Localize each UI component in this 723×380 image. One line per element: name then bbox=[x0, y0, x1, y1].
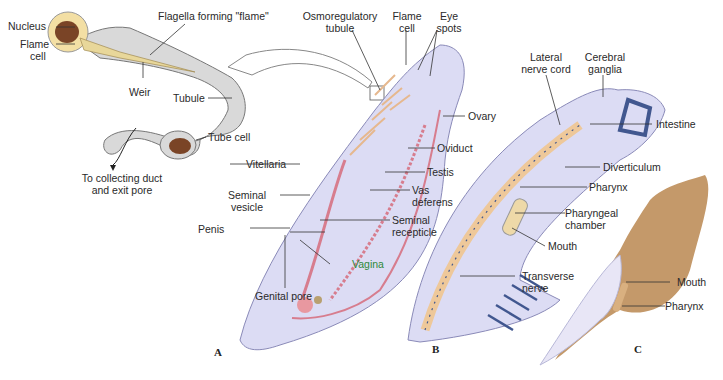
label-genital-pore: Genital pore bbox=[255, 290, 312, 302]
label-osmoregulatory-1: Osmoregulatory bbox=[300, 10, 380, 22]
panel-label-c: C bbox=[634, 343, 642, 355]
label-eye-spots-2: spots bbox=[432, 22, 466, 34]
label-mouth-b: Mouth bbox=[548, 240, 577, 252]
label-collecting-duct-1: To collecting duct bbox=[72, 172, 172, 184]
label-cerebral-ganglia-1: Cerebral bbox=[580, 51, 630, 63]
label-flame-cell-a-1: Flame bbox=[390, 10, 424, 22]
label-cerebral-ganglia-2: ganglia bbox=[580, 63, 630, 75]
label-testis: Testis bbox=[427, 166, 454, 178]
label-intestine: Intestine bbox=[656, 118, 696, 130]
label-pharyngeal-chamber-2: chamber bbox=[565, 219, 606, 231]
label-nucleus: Nucleus bbox=[8, 20, 46, 32]
label-lateral-nerve-cord-2: nerve cord bbox=[513, 63, 579, 75]
label-seminal-vesicle-2: vesicle bbox=[214, 201, 280, 213]
label-vas-deferens-1: Vas bbox=[412, 184, 429, 196]
label-vas-deferens-2: deferens bbox=[412, 196, 453, 208]
label-ovary: Ovary bbox=[468, 110, 496, 122]
label-tubule: Tubule bbox=[173, 92, 205, 104]
label-tube-cell: Tube cell bbox=[208, 131, 250, 143]
panel-label-a: A bbox=[214, 346, 222, 358]
label-flagella: Flagella forming "flame" bbox=[158, 10, 269, 22]
label-lateral-nerve-cord-1: Lateral bbox=[513, 51, 579, 63]
label-diverticulum: Diverticulum bbox=[603, 161, 661, 173]
label-penis: Penis bbox=[198, 223, 224, 235]
label-mouth-c: Mouth bbox=[677, 276, 706, 288]
label-eye-spots-1: Eye bbox=[432, 10, 466, 22]
label-pharynx-b: Pharynx bbox=[589, 181, 628, 193]
label-seminal-recepticle-1: Seminal bbox=[392, 214, 430, 226]
label-oviduct: Oviduct bbox=[437, 142, 473, 154]
label-flame-cell-inset-1: Flame bbox=[20, 38, 49, 50]
label-weir: Weir bbox=[129, 86, 150, 98]
label-pharynx-c: Pharynx bbox=[665, 300, 704, 312]
label-transverse-nerve-1: Transverse bbox=[522, 270, 574, 282]
label-seminal-vesicle-1: Seminal bbox=[214, 189, 280, 201]
label-flame-cell-inset-2: cell bbox=[30, 50, 46, 62]
label-vitellaria: Vitellaria bbox=[246, 158, 286, 170]
label-pharyngeal-chamber-1: Pharyngeal bbox=[565, 207, 618, 219]
label-collecting-duct-2: and exit pore bbox=[72, 184, 172, 196]
label-seminal-recepticle-2: recepticle bbox=[392, 226, 437, 238]
label-osmoregulatory-2: tubule bbox=[300, 22, 380, 34]
label-flame-cell-a-2: cell bbox=[390, 22, 424, 34]
label-vagina: Vagina bbox=[352, 258, 384, 270]
panel-label-b: B bbox=[432, 343, 439, 355]
label-transverse-nerve-2: nerve bbox=[522, 282, 548, 294]
